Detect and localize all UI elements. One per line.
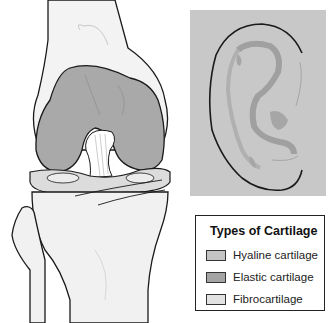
cartilage-legend: Types of Cartilage Hyaline cartilage Ela… — [195, 215, 325, 311]
knee-joint-illustration — [0, 0, 190, 323]
legend-title: Types of Cartilage — [210, 224, 317, 238]
fibro-swatch — [206, 294, 226, 305]
legend-label: Elastic cartilage — [233, 271, 314, 283]
legend-item-hyaline: Hyaline cartilage — [206, 248, 318, 262]
legend-item-fibro: Fibrocartilage — [206, 292, 303, 306]
hyaline-swatch — [206, 250, 226, 261]
legend-label: Hyaline cartilage — [233, 249, 318, 261]
legend-label: Fibrocartilage — [233, 293, 303, 305]
ear-illustration — [190, 10, 326, 196]
elastic-cartilage-helix — [238, 44, 294, 154]
elastic-swatch — [206, 272, 226, 283]
ear-panel — [190, 10, 326, 196]
legend-item-elastic: Elastic cartilage — [206, 270, 314, 284]
